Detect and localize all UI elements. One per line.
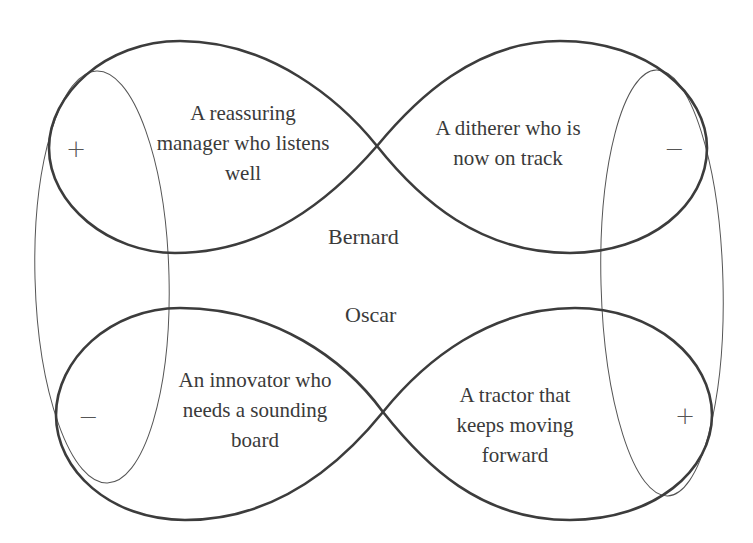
right-ellipse	[595, 68, 728, 497]
person-name-bernard: Bernard	[328, 224, 399, 250]
plus-sign-icon: +	[673, 404, 697, 428]
person-name-oscar: Oscar	[345, 302, 396, 328]
upper-right-label: A ditherer who is now on track	[408, 113, 608, 173]
plus-sign-icon: +	[64, 137, 88, 161]
lower-right-label: A tractor that keeps moving forward	[425, 380, 605, 470]
minus-sign-icon: −	[662, 137, 686, 161]
infinity-diagram	[0, 0, 753, 543]
lower-left-label: An innovator who needs a sounding board	[150, 365, 360, 455]
upper-left-label: A reassuring manager who listens well	[133, 98, 353, 188]
minus-sign-icon: −	[76, 405, 100, 429]
